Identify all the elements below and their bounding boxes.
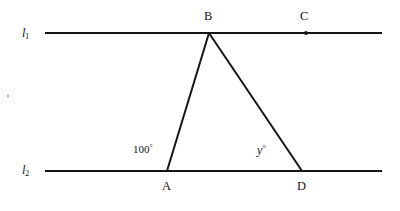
angle-label-at-d: y° <box>257 144 266 156</box>
line-label-l1-subscript: 1 <box>25 31 29 41</box>
angle-label-at-a: 100° <box>133 144 153 155</box>
point-marker-c <box>304 31 308 35</box>
point-label-b: B <box>204 10 213 23</box>
stray-dot-artifact <box>7 95 9 97</box>
geometry-canvas <box>0 0 400 211</box>
angle-value-at-a: 100 <box>133 143 150 155</box>
line-label-l1: l1 <box>22 27 29 41</box>
degree-symbol-at-d: ° <box>262 144 265 153</box>
geometry-figure: l1 l2 B C A D 100° y° <box>0 0 400 211</box>
line-label-l2: l2 <box>22 164 29 178</box>
degree-symbol-at-a: ° <box>150 143 153 152</box>
point-label-a: A <box>162 180 171 193</box>
segment-ab <box>167 33 209 171</box>
point-label-c: C <box>300 10 309 23</box>
point-label-d: D <box>297 180 306 193</box>
segment-bd <box>209 33 302 171</box>
line-label-l2-subscript: 2 <box>25 168 29 178</box>
